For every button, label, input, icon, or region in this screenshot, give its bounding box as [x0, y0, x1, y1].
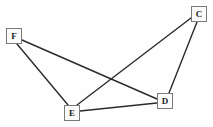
graph-edge-e-d: [80, 103, 157, 111]
graph-edge-f-d: [22, 40, 157, 99]
graph-node-label-c: C: [196, 10, 203, 19]
graph-node-f[interactable]: F: [6, 28, 22, 44]
graph-node-c[interactable]: C: [191, 6, 207, 22]
graph-edge-c-e: [77, 18, 191, 105]
graph-edges-layer: [0, 0, 213, 127]
graph-node-label-f: F: [11, 32, 17, 41]
graph-diagram-canvas: FCED: [0, 0, 213, 127]
graph-edge-f-e: [17, 44, 68, 105]
graph-node-e[interactable]: E: [64, 105, 80, 121]
graph-node-label-e: E: [69, 109, 75, 118]
graph-node-label-d: D: [162, 97, 169, 106]
graph-node-d[interactable]: D: [157, 93, 173, 109]
graph-edge-c-d: [169, 22, 197, 93]
